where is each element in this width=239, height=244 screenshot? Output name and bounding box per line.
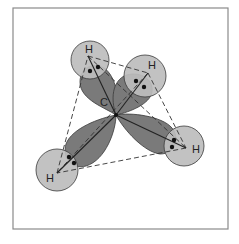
electron-dot [96, 65, 100, 69]
hydrogen-label: H [85, 43, 93, 55]
hydrogen-label: H [192, 143, 200, 155]
electron-dot [88, 69, 92, 73]
electron-dot [134, 79, 138, 83]
electron-dot [72, 161, 76, 165]
carbon-nucleus [114, 113, 118, 117]
carbon-label: C [100, 96, 108, 108]
electron-dot [67, 155, 71, 159]
hydrogen-label: H [46, 172, 54, 184]
electron-dot [172, 138, 176, 142]
electron-dot [142, 85, 146, 89]
methane-orbital-diagram: HHHHC [0, 0, 239, 244]
electron-dot [170, 145, 174, 149]
hydrogen-label: H [148, 59, 156, 71]
